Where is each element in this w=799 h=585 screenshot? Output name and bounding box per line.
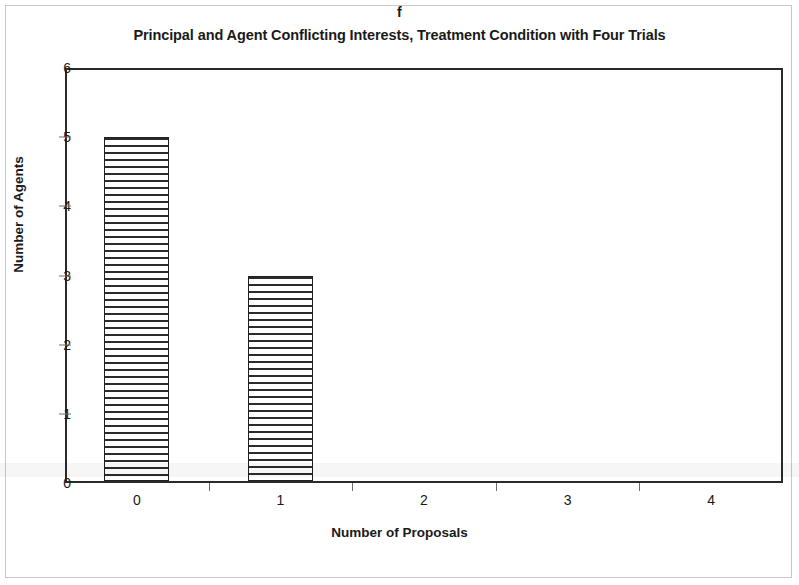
chart-title: Principal and Agent Conflicting Interest…: [0, 27, 799, 43]
x-axis-title: Number of Proposals: [0, 525, 799, 540]
bar: [104, 137, 169, 481]
panel-letter: f: [0, 4, 799, 20]
plot-frame: [65, 68, 783, 483]
y-axis-title: Number of Agents: [11, 135, 26, 295]
plot-area: [67, 70, 781, 481]
bar: [248, 276, 313, 482]
